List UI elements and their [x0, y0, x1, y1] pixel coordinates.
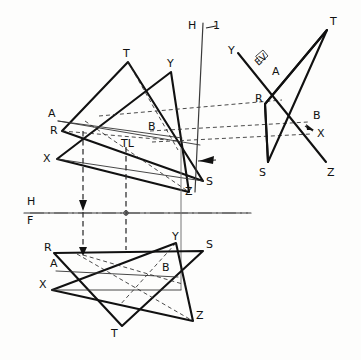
- top-view-label-y: Y: [167, 58, 174, 69]
- aux-view-label-a: A: [272, 66, 280, 77]
- aux-view-label-s: S: [259, 167, 266, 178]
- aux-view-label-z: Z: [327, 167, 335, 178]
- front-view-label-x: X: [39, 279, 47, 290]
- aux-view-label-x: X: [317, 128, 325, 139]
- aux-view-label-b: B: [313, 110, 321, 121]
- aux-view-tickmark-x: [305, 124, 314, 131]
- top-view-label-b: B: [148, 121, 156, 132]
- front-view-label-t: T: [111, 328, 118, 339]
- front-view-triangle-xyz: [52, 243, 193, 321]
- aux-view-label-y: Y: [228, 45, 235, 56]
- front-view-label-a: A: [50, 258, 58, 269]
- aux-view-label-r: R: [255, 93, 263, 104]
- fold-label-h1-right: 1: [213, 20, 220, 31]
- view-direction-arrow: [198, 156, 216, 164]
- aux-view-triangle-xyz: [265, 30, 327, 162]
- aux-view-edge-line-rst: [238, 53, 326, 162]
- front-view-label-r: R: [44, 242, 52, 253]
- front-view-label-b: B: [162, 262, 170, 273]
- front-view-label-z: Z: [196, 310, 204, 321]
- engineering-drawing-canvas: H 1 H F TL EV T Y A R B X S Z R A X Y S …: [0, 0, 361, 360]
- top-view-label-r: R: [50, 125, 58, 136]
- front-view-label-y: Y: [172, 231, 179, 242]
- true-length-label: TL: [121, 138, 134, 149]
- aux-view-label-t: T: [330, 16, 337, 27]
- aux-view-segment-rs: [265, 104, 268, 162]
- top-view-label-a: A: [48, 108, 56, 119]
- top-view-label-s: S: [206, 176, 213, 187]
- fold-label-h1-left: H: [188, 20, 196, 31]
- fold-label-hf-upper: H: [27, 196, 35, 207]
- geometry-layer: [0, 0, 361, 360]
- fold-label-hf-lower: F: [27, 215, 33, 226]
- top-view-label-z: Z: [185, 186, 193, 197]
- front-view-label-s: S: [206, 239, 213, 250]
- top-view-label-t: T: [123, 48, 130, 59]
- top-view-label-x: X: [43, 153, 51, 164]
